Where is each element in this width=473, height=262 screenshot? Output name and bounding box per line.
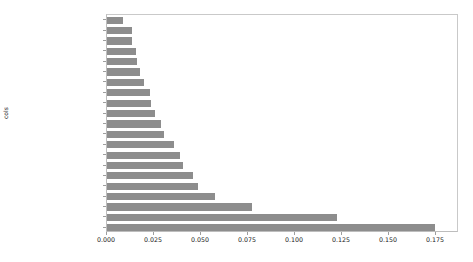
x-tick-mark [294,232,295,235]
x-tick-label: 0.125 [321,236,361,243]
y-axis-tick-mark [103,40,106,41]
bar-row [107,88,457,98]
bar [107,58,137,65]
bar-row [107,46,457,56]
x-tick-mark [106,232,107,235]
bar [107,214,337,221]
x-tick-mark [341,232,342,235]
x-tick-mark [388,232,389,235]
bar [107,131,164,138]
y-axis-tick-mark [103,92,106,93]
y-axis-tick-mark [103,175,106,176]
x-tick-label: 0.175 [415,236,455,243]
bar [107,17,123,24]
y-axis-tick-mark [103,30,106,31]
bar [107,27,132,34]
y-axis-tick-mark [103,19,106,20]
bar-row [107,25,457,35]
bar [107,172,193,179]
bar-row [107,77,457,87]
x-tick-label: 0.000 [86,236,126,243]
bar-row [107,36,457,46]
bar [107,89,150,96]
y-axis-tick-mark [103,113,106,114]
y-axis-tick-mark [103,61,106,62]
bar [107,100,151,107]
bar [107,152,180,159]
bar-row [107,202,457,212]
y-axis-tick-mark [103,227,106,228]
bar [107,193,215,200]
y-axis-tick-mark [103,154,106,155]
bar-row [107,212,457,222]
bar [107,37,132,44]
y-axis-tick-mark [103,123,106,124]
bar [107,183,198,190]
y-axis-tick-mark [103,81,106,82]
bar-row [107,15,457,25]
bar-row [107,98,457,108]
bar [107,141,174,148]
x-tick-label: 0.050 [180,236,220,243]
y-axis-tick-mark [103,216,106,217]
x-tick-label: 0.075 [227,236,267,243]
y-axis-tick-mark [103,206,106,207]
bar-row [107,160,457,170]
bar-row [107,181,457,191]
y-axis-tick-mark [103,165,106,166]
bar-row [107,57,457,67]
y-axis-tick-mark [103,102,106,103]
y-axis-tick-mark [103,133,106,134]
x-tick-mark [247,232,248,235]
bar [107,120,161,127]
bar [107,224,435,231]
x-tick-label: 0.025 [133,236,173,243]
y-axis-tick-mark [103,185,106,186]
x-tick-label: 0.150 [368,236,408,243]
bar-row [107,191,457,201]
bar-row [107,223,457,233]
bar-row [107,150,457,160]
bar [107,203,252,210]
bar [107,110,155,117]
bar-chart-figure: cols Drive_SystemProductGroupProductGrou… [0,0,473,262]
bar-row [107,140,457,150]
x-tick-mark [153,232,154,235]
bar [107,48,136,55]
bar-row [107,108,457,118]
y-axis-label: cols [2,93,9,133]
bar [107,79,144,86]
y-axis-tick-mark [103,196,106,197]
plot-area [106,14,458,232]
y-axis-tick-mark [103,144,106,145]
bar-row [107,119,457,129]
bar [107,68,140,75]
bar [107,162,183,169]
bar-row [107,129,457,139]
bar-row [107,67,457,77]
bars-container [107,15,457,231]
bar-row [107,171,457,181]
x-tick-mark [200,232,201,235]
x-tick-label: 0.100 [274,236,314,243]
x-tick-mark [435,232,436,235]
y-axis-tick-mark [103,50,106,51]
y-axis-tick-mark [103,71,106,72]
